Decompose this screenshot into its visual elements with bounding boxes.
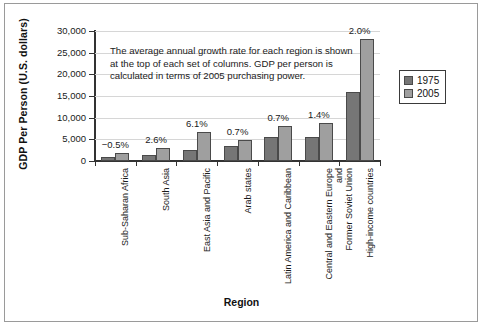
category-label: Latin America and Caribbean	[283, 168, 293, 288]
x-tick-mark	[380, 161, 381, 166]
y-tick-label: 15,000	[26, 91, 86, 101]
bar-2005	[360, 39, 374, 161]
y-tick-label-wrap: 15,000	[22, 91, 86, 101]
legend-swatch-1975	[404, 76, 413, 85]
y-tick-label: 30,000	[26, 26, 86, 36]
x-tick-mark	[136, 161, 137, 166]
x-tick-mark	[339, 161, 340, 166]
y-tick-label-wrap: 20,000	[22, 69, 86, 79]
y-tick-mark	[89, 161, 94, 162]
category-label: East Asia and Pacific	[202, 168, 212, 288]
y-tick-mark	[89, 118, 94, 119]
y-tick-mark	[89, 96, 94, 97]
category-label: Central and Eastern Europe and Former So…	[324, 168, 354, 288]
y-tick-mark	[89, 74, 94, 75]
y-tick-label: 0	[26, 156, 86, 166]
y-tick-mark	[89, 53, 94, 54]
category-label: South Asia	[161, 168, 171, 288]
category-label: High-income countries	[365, 168, 375, 288]
y-tick-label: 20,000	[26, 69, 86, 79]
y-tick-label: 5,000	[26, 134, 86, 144]
legend-swatch-2005	[404, 89, 413, 98]
x-tick-mark	[217, 161, 218, 166]
growth-rate-label: 2.6%	[126, 135, 186, 145]
chart-legend: 1975 2005	[399, 70, 446, 104]
category-label: Sub-Saharan Africa	[120, 168, 130, 288]
y-tick-mark	[89, 31, 94, 32]
y-tick-label-wrap: 30,000	[22, 26, 86, 36]
growth-rate-label: 2.0%	[330, 26, 390, 36]
x-axis-title: Region	[0, 296, 483, 308]
y-tick-label-wrap: 0	[22, 156, 86, 166]
y-tick-label: 25,000	[26, 48, 86, 58]
category-label: Arab states	[243, 168, 253, 288]
legend-item-1975: 1975	[404, 74, 439, 87]
y-tick-label-wrap: 10,000	[22, 113, 86, 123]
x-tick-mark	[299, 161, 300, 166]
legend-label-2005: 2005	[417, 88, 439, 99]
bar-1975	[346, 92, 360, 161]
growth-rate-label: 0.7%	[208, 127, 268, 137]
y-tick-label-wrap: 5,000	[22, 134, 86, 144]
x-tick-mark	[258, 161, 259, 166]
growth-rate-label: 1.4%	[289, 110, 349, 120]
legend-label-1975: 1975	[417, 75, 439, 86]
x-tick-mark	[176, 161, 177, 166]
legend-item-2005: 2005	[404, 87, 439, 100]
chart-note: The average annual growth rate for each …	[110, 45, 358, 83]
chart-figure: GDP Per Person (U.S. dollars) 05,00010,0…	[0, 0, 483, 332]
y-tick-label-wrap: 25,000	[22, 48, 86, 58]
y-tick-label: 10,000	[26, 113, 86, 123]
x-tick-mark	[95, 161, 96, 166]
